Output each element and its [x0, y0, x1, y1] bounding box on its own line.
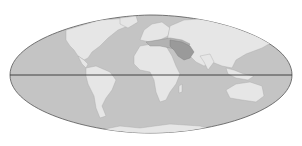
globe [10, 15, 292, 134]
world-map [0, 0, 302, 146]
